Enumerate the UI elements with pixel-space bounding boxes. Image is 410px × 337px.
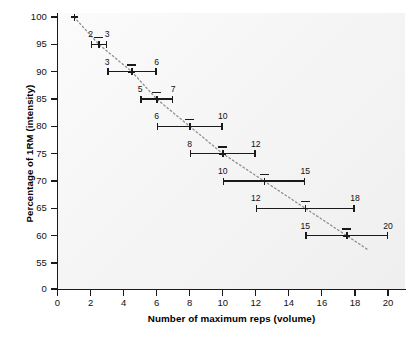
data-point-marker	[343, 232, 350, 239]
error-bar-cap	[157, 123, 159, 130]
mean-dash	[185, 119, 194, 121]
y-tick-label-85: 85	[36, 94, 47, 103]
x-tick-8	[189, 290, 190, 296]
x-tick-20	[387, 290, 388, 296]
range-high-label: 15	[296, 167, 314, 176]
x-tick-label-0: 0	[46, 298, 70, 308]
y-tick-label-60: 60	[36, 231, 47, 240]
y-tick-90	[51, 71, 57, 72]
data-point-marker	[71, 14, 78, 21]
y-tick-label-0: 0	[42, 284, 47, 293]
x-tick-label-8: 8	[178, 298, 202, 308]
range-high-label: 18	[346, 194, 364, 203]
x-tick-label-18: 18	[343, 298, 367, 308]
y-tick-100	[51, 16, 57, 17]
mean-dash	[301, 201, 310, 203]
x-tick-0	[57, 290, 58, 296]
figure-caption	[6, 330, 406, 337]
error-bar-cap	[353, 205, 355, 212]
range-high-label: 7	[164, 85, 182, 94]
error-bar-cap	[304, 178, 306, 185]
data-point-marker	[95, 41, 102, 48]
x-tick-2	[90, 290, 91, 296]
x-tick-label-10: 10	[211, 298, 235, 308]
error-bar-cap	[172, 96, 174, 103]
y-tick-label-90: 90	[36, 67, 47, 76]
y-tick-label-55: 55	[36, 258, 47, 267]
x-tick-label-14: 14	[277, 298, 301, 308]
y-axis-line	[57, 13, 58, 290]
range-low-label: 3	[98, 58, 116, 67]
x-tick-10	[222, 290, 223, 296]
y-tick-75	[51, 153, 57, 154]
x-tick-18	[354, 290, 355, 296]
x-tick-4	[123, 290, 124, 296]
figure-scatter-1rm-vs-reps: 0556065707580859095100 02468101214161820…	[0, 0, 410, 337]
range-low-label: 15	[296, 222, 314, 231]
error-bar-cap	[254, 150, 256, 157]
y-tick-65	[51, 208, 57, 209]
range-low-label: 12	[247, 194, 265, 203]
x-tick-16	[321, 290, 322, 296]
y-tick-70	[51, 180, 57, 181]
error-bar-cap	[91, 41, 93, 48]
error-bar-cap	[107, 68, 109, 75]
y-axis-title: Percentage of 1RM (intensity)	[24, 39, 35, 269]
y-tick-label-75: 75	[36, 149, 47, 158]
data-point-marker	[261, 178, 268, 185]
data-point-marker	[128, 68, 135, 75]
x-tick-14	[288, 290, 289, 296]
range-low-label: 5	[131, 85, 149, 94]
y-tick-label-100: 100	[31, 12, 47, 21]
x-tick-12	[255, 290, 256, 296]
mean-dash	[218, 146, 227, 148]
trendline-dotted	[0, 0, 410, 337]
mean-dash	[152, 92, 161, 94]
error-bar-cap	[190, 150, 192, 157]
range-high-label: 12	[247, 140, 265, 149]
data-point-marker	[219, 150, 226, 157]
y-tick-label-95: 95	[36, 39, 47, 48]
x-tick-label-20: 20	[376, 298, 400, 308]
mean-dash	[127, 64, 136, 66]
x-tick-label-4: 4	[112, 298, 136, 308]
x-axis-title: Number of maximum reps (volume)	[57, 313, 406, 324]
range-high-label: 6	[148, 58, 166, 67]
y-tick-95	[51, 44, 57, 45]
data-point-marker	[302, 205, 309, 212]
y-tick-label-80: 80	[36, 121, 47, 130]
error-bar-cap	[221, 123, 223, 130]
range-low-label: 6	[148, 112, 166, 121]
error-bar-cap	[106, 41, 108, 48]
y-tick-85	[51, 98, 57, 99]
range-low-label: 8	[181, 140, 199, 149]
x-tick-label-16: 16	[310, 298, 334, 308]
error-bar-cap	[155, 68, 157, 75]
error-bar-cap	[387, 232, 389, 239]
data-point-marker	[153, 96, 160, 103]
error-bar-cap	[256, 205, 258, 212]
y-tick-55	[51, 262, 57, 263]
mean-dash	[260, 174, 269, 176]
error-bar-cap	[305, 232, 307, 239]
range-low-label: 10	[214, 167, 232, 176]
y-tick-60	[51, 235, 57, 236]
y-tick-label-65: 65	[36, 203, 47, 212]
range-high-label: 20	[379, 222, 397, 231]
mean-dash	[94, 37, 103, 39]
x-tick-label-12: 12	[244, 298, 268, 308]
mean-dash	[342, 228, 351, 230]
error-bar-cap	[140, 96, 142, 103]
error-bar-cap	[223, 178, 225, 185]
x-tick-6	[156, 290, 157, 296]
x-tick-label-2: 2	[79, 298, 103, 308]
range-high-label: 10	[214, 112, 232, 121]
y-tick-label-70: 70	[36, 176, 47, 185]
y-tick-80	[51, 126, 57, 127]
x-tick-label-6: 6	[145, 298, 169, 308]
data-point-marker	[186, 123, 193, 130]
